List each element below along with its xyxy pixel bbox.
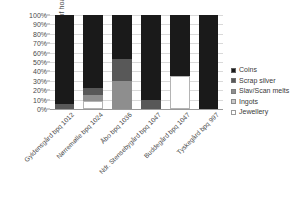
- y-axis-tick-label: 90%: [33, 21, 47, 28]
- bar-segment-scrap-silver[interactable]: [55, 104, 75, 109]
- legend-item[interactable]: Ingots: [231, 98, 289, 106]
- bar-segment-coins[interactable]: [170, 15, 190, 76]
- legend-swatch-icon: [231, 68, 236, 73]
- bar-segment-coins[interactable]: [112, 15, 132, 59]
- legend-swatch-icon: [231, 89, 236, 94]
- y-axis-tick-label: 100%: [29, 12, 47, 19]
- bar-segment-slav-scan-melts[interactable]: [83, 95, 103, 102]
- bars-container: [50, 15, 223, 109]
- bar-segment-scrap-silver[interactable]: [141, 100, 161, 109]
- x-axis-label: Gyldensgård bpq 1012: [23, 111, 75, 163]
- bar-slot: [165, 15, 194, 109]
- legend-label: Ingots: [239, 98, 258, 106]
- bar-segment-jewellery[interactable]: [170, 76, 190, 109]
- bar-slot: [50, 15, 79, 109]
- legend-item[interactable]: Jewellery: [231, 108, 289, 116]
- y-axis-tick-label: 70%: [33, 40, 47, 47]
- bar-segment-scrap-silver[interactable]: [112, 59, 132, 81]
- stacked-bar-chart: Proportion of hoard weight 100%90%80%70%…: [0, 0, 308, 208]
- y-axis-tick-label: 20%: [33, 87, 47, 94]
- legend-swatch-icon: [231, 99, 236, 104]
- bar-segment-coins[interactable]: [199, 15, 219, 109]
- legend-label: Scrap silver: [239, 77, 276, 85]
- y-axis-tick-label: 0%: [37, 106, 47, 113]
- bar-segment-jewellery[interactable]: [83, 101, 103, 109]
- legend-item[interactable]: Scrap silver: [231, 77, 289, 85]
- y-axis-tick-label: 30%: [33, 77, 47, 84]
- bar-slot: [108, 15, 137, 109]
- y-axis-tick-label: 50%: [33, 59, 47, 66]
- legend-swatch-icon: [231, 78, 236, 83]
- y-axis-tick-label: 10%: [33, 96, 47, 103]
- bar-slot: [79, 15, 108, 109]
- stacked-bar[interactable]: [199, 15, 219, 109]
- bar-segment-coins[interactable]: [83, 15, 103, 88]
- legend-item[interactable]: Coins: [231, 66, 289, 74]
- legend-item[interactable]: Slav/Scan melts: [231, 87, 289, 95]
- bar-segment-scrap-silver[interactable]: [83, 88, 103, 95]
- bar-segment-coins[interactable]: [141, 15, 161, 100]
- legend-label: Slav/Scan melts: [239, 87, 289, 95]
- bar-segment-slav-scan-melts[interactable]: [112, 81, 132, 109]
- gridline: [50, 109, 223, 110]
- legend-label: Jewellery: [239, 108, 268, 116]
- legend-swatch-icon: [231, 110, 236, 115]
- chart-legend: CoinsScrap silverSlav/Scan meltsIngotsJe…: [231, 66, 289, 116]
- stacked-bar[interactable]: [170, 15, 190, 109]
- y-axis-tick-label: 60%: [33, 49, 47, 56]
- bar-segment-coins[interactable]: [55, 15, 75, 104]
- bar-slot: [136, 15, 165, 109]
- stacked-bar[interactable]: [83, 15, 103, 109]
- stacked-bar[interactable]: [112, 15, 132, 109]
- legend-label: Coins: [239, 66, 257, 74]
- stacked-bar[interactable]: [55, 15, 75, 109]
- y-axis-tick-label: 40%: [33, 68, 47, 75]
- bar-slot: [194, 15, 223, 109]
- y-axis-tick-label: 80%: [33, 30, 47, 37]
- plot-area: Proportion of hoard weight 100%90%80%70%…: [50, 15, 223, 109]
- stacked-bar[interactable]: [141, 15, 161, 109]
